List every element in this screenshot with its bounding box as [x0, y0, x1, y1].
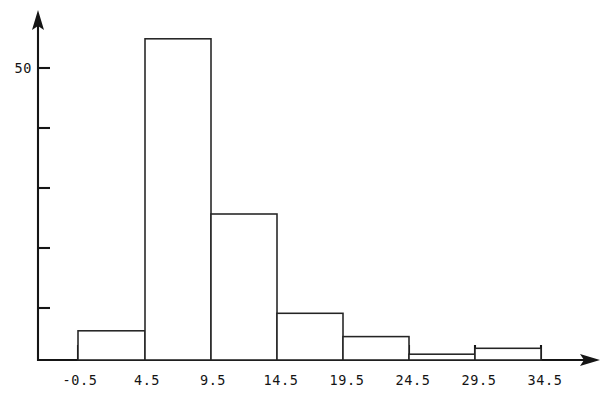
y-tick-label-50: 50 [15, 60, 32, 76]
x-tick-label-1: 4.5 [134, 372, 160, 388]
x-tick-label-7: 34.5 [528, 372, 563, 388]
y-axis-ticks [38, 68, 50, 308]
histogram-bar [475, 348, 541, 360]
histogram-bar [78, 331, 145, 360]
histogram-chart: 50 -0.5 4.5 9.5 14.5 1 [0, 0, 612, 397]
histogram-bar [409, 354, 475, 360]
x-tick-label-2: 9.5 [200, 372, 226, 388]
histogram-plot-area: 50 -0.5 4.5 9.5 14.5 1 [0, 0, 612, 397]
x-tick-label-0: -0.5 [63, 372, 98, 388]
histogram-bars [78, 39, 541, 360]
histogram-bar [343, 337, 409, 360]
x-tick-label-5: 24.5 [396, 372, 431, 388]
x-axis-tick-labels: -0.5 4.5 9.5 14.5 19.5 24.5 29.5 34.5 [63, 372, 563, 388]
histogram-bar [277, 313, 343, 360]
x-tick-label-6: 29.5 [462, 372, 497, 388]
histogram-bar [211, 214, 277, 360]
x-tick-label-4: 19.5 [330, 372, 365, 388]
x-tick-label-3: 14.5 [264, 372, 299, 388]
histogram-bar [145, 39, 211, 360]
